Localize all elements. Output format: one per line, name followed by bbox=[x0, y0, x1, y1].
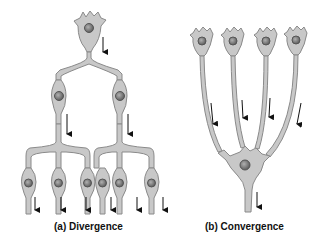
presynaptic-neurons bbox=[190, 26, 307, 56]
divergence-caption: (a) Divergence bbox=[54, 221, 123, 232]
middle-neuron-left bbox=[52, 80, 67, 124]
neuron-circuits-diagram bbox=[0, 0, 331, 245]
postsynaptic-neurons bbox=[22, 168, 160, 214]
convergence-panel bbox=[190, 26, 307, 212]
divergence-panel bbox=[22, 11, 160, 214]
presynaptic-neuron bbox=[74, 11, 106, 52]
convergence-caption: (b) Convergence bbox=[205, 221, 284, 232]
postsynaptic-neuron bbox=[218, 146, 270, 212]
middle-neuron-right bbox=[113, 80, 128, 124]
